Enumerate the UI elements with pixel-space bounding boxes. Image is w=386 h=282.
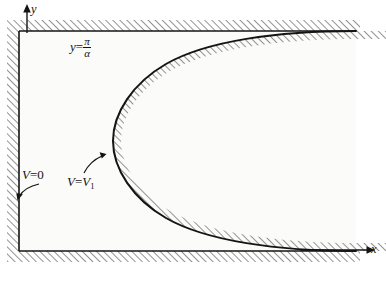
figure-container: y x y= π α V=0 V=V1 bbox=[0, 0, 386, 282]
x-axis-label: x bbox=[371, 243, 377, 256]
diagram-canvas bbox=[0, 0, 386, 282]
electrode-lhs: V bbox=[67, 174, 75, 189]
grounded-wall-label: V=0 bbox=[22, 168, 44, 181]
grounded-wall-value: 0 bbox=[37, 167, 44, 182]
grounded-wall-lhs: V bbox=[22, 167, 30, 182]
electrode-label: V=V1 bbox=[67, 175, 95, 190]
top-boundary-equals: = bbox=[76, 39, 83, 54]
fraction-denominator: α bbox=[83, 47, 91, 59]
electrode-subscript: 1 bbox=[90, 181, 94, 191]
electrode-hatching bbox=[0, 0, 386, 282]
top-boundary-label: y= π α bbox=[70, 36, 91, 59]
fraction-numerator: π bbox=[83, 36, 91, 47]
y-axis-label: y bbox=[31, 3, 37, 16]
pi-over-alpha-fraction: π α bbox=[83, 36, 91, 59]
